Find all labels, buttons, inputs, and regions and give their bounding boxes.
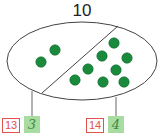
whole-ellipse [7,22,157,100]
left-dots [36,45,60,67]
right-dots [70,38,132,87]
question-label-13: 13 [2,118,20,133]
question-label-14: 14 [86,118,104,133]
answer-box-13[interactable]: 3 [24,116,40,133]
answer-box-14[interactable]: 4 [108,116,124,133]
